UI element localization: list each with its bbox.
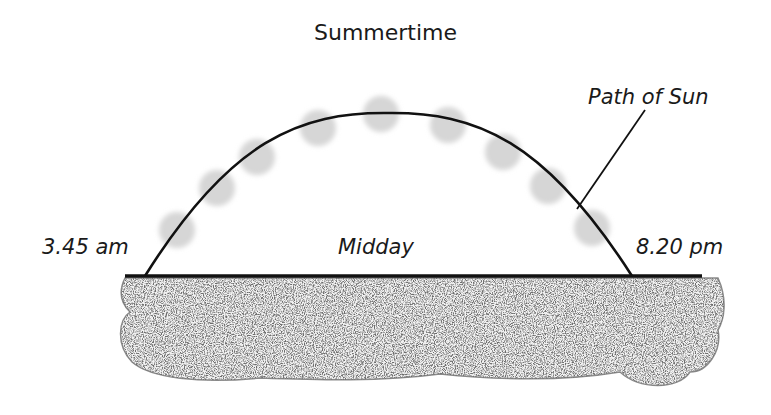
sun-icon (574, 210, 610, 246)
sunset-time-label: 8.20 pm (636, 235, 723, 259)
midday-label: Midday (338, 235, 414, 259)
sun-icon (199, 170, 235, 206)
sun-icon (430, 107, 466, 143)
sun-icon (300, 110, 336, 146)
ground (115, 276, 735, 396)
diagram-title: Summertime (0, 20, 771, 45)
path-of-sun-label: Path of Sun (588, 85, 709, 109)
sunrise-time-label: 3.45 am (42, 235, 129, 259)
sun-path-diagram (0, 0, 771, 415)
path-pointer-line (577, 110, 645, 209)
